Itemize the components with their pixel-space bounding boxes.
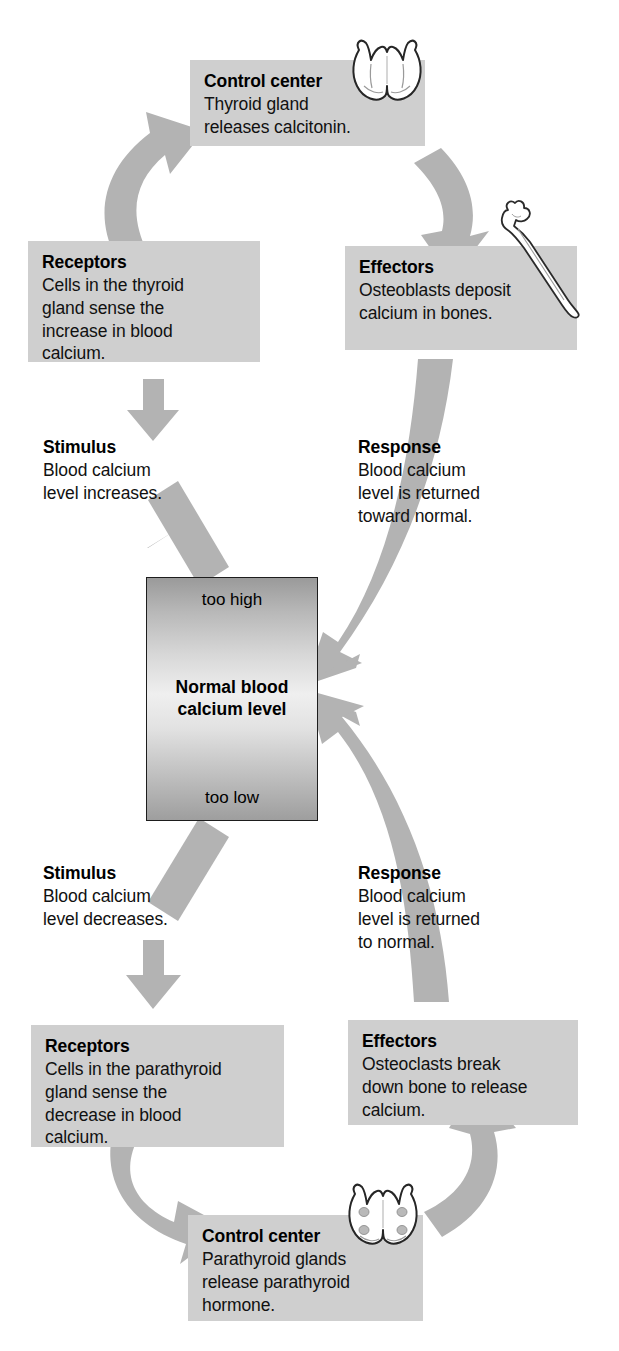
effectors-box-lower: Effectors Osteoclasts break down bone to… xyxy=(348,1020,578,1125)
arrow-center-to-receptors-upper xyxy=(147,530,205,580)
center-top-label: too high xyxy=(147,590,317,610)
arrowhead-into-center-from-lower xyxy=(318,698,360,726)
stimulus-title-upper: Stimulus xyxy=(43,436,233,459)
receptors-body-lower: Cells in the parathyroid gland sense the… xyxy=(45,1058,272,1149)
center-middle-label: Normal blood calcium level xyxy=(147,677,317,721)
arrow-effectors-to-center-lower xyxy=(307,690,449,1002)
receptors-body-upper: Cells in the thyroid gland sense the inc… xyxy=(42,274,248,365)
stimulus-label-lower: Stimulus Blood calcium level decreases. xyxy=(43,862,243,931)
center-bottom-label: too low xyxy=(147,788,317,808)
stimulus-body-lower: Blood calcium level decreases. xyxy=(43,885,243,931)
parathyroid-gland-icon xyxy=(333,1178,433,1264)
effectors-title-lower: Effectors xyxy=(362,1030,566,1053)
response-body-upper: Blood calcium level is returned toward n… xyxy=(358,459,558,527)
arrowhead-into-center-from-upper xyxy=(318,654,360,681)
response-title-lower: Response xyxy=(358,862,558,885)
normal-blood-calcium-level-box: too high Normal blood calcium level too … xyxy=(146,577,318,821)
homeostasis-diagram: Control center Thyroid gland releases ca… xyxy=(0,0,619,1351)
stimulus-body-upper: Blood calcium level increases. xyxy=(43,459,233,505)
stimulus-title-lower: Stimulus xyxy=(43,862,243,885)
response-label-upper: Response Blood calcium level is returned… xyxy=(358,436,558,527)
receptors-title-upper: Receptors xyxy=(42,251,248,274)
arrow-receptors-up-upper xyxy=(127,379,179,441)
response-title-upper: Response xyxy=(358,436,558,459)
response-body-lower: Blood calcium level is returned to norma… xyxy=(358,885,558,953)
stimulus-label-upper: Stimulus Blood calcium level increases. xyxy=(43,436,233,505)
response-label-lower: Response Blood calcium level is returned… xyxy=(358,862,558,953)
bone-icon xyxy=(472,196,582,321)
receptors-title-lower: Receptors xyxy=(45,1035,272,1058)
arrow-receptors-down-lower xyxy=(126,940,181,1009)
effectors-body-lower: Osteoclasts break down bone to release c… xyxy=(362,1053,566,1121)
receptors-box-upper: Receptors Cells in the thyroid gland sen… xyxy=(28,241,260,362)
thyroid-gland-icon xyxy=(337,34,437,116)
receptors-box-lower: Receptors Cells in the parathyroid gland… xyxy=(31,1025,284,1147)
